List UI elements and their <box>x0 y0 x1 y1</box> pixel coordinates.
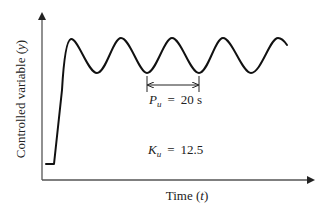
period-label: Pu=20 s <box>148 92 202 109</box>
gain-label: Ku=12.5 <box>147 142 203 159</box>
y-axis-label: Controlled variable (y) <box>13 40 28 158</box>
x-axis-label: Time (t) <box>166 188 209 203</box>
period-marker <box>147 76 199 92</box>
ultimate-gain-diagram: Pu=20 s Ku=12.5 Time (t) Controlled vari… <box>0 0 330 214</box>
